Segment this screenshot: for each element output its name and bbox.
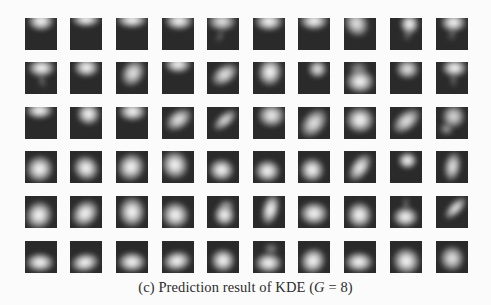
prediction-image-r6-c10 [436, 241, 468, 273]
prediction-image-r3-c4 [162, 107, 194, 139]
prediction-image-r3-c7 [298, 107, 330, 139]
density-blob [255, 253, 282, 273]
density-blob [25, 151, 57, 183]
prediction-image-r2-c10 [436, 62, 468, 94]
prediction-image-r3-c10 [436, 107, 468, 139]
density-blob [255, 18, 283, 31]
prediction-image-r3-c6 [253, 107, 285, 139]
density-blob [345, 252, 373, 272]
density-blob [211, 249, 234, 272]
prediction-image-r4-c6 [253, 151, 285, 183]
density-blob [162, 248, 193, 273]
prediction-image-r4-c8 [344, 151, 376, 183]
density-blob [162, 107, 194, 136]
prediction-image-r4-c1 [25, 151, 57, 183]
prediction-image-r1-c6 [253, 18, 285, 50]
density-blob [25, 197, 57, 228]
density-blob [259, 196, 283, 226]
density-blob [165, 18, 193, 30]
prediction-image-r5-c4 [162, 196, 194, 228]
prediction-image-r5-c10 [436, 196, 468, 228]
density-blob [393, 207, 417, 227]
density-blob [300, 18, 328, 30]
prediction-image-r1-c2 [70, 18, 102, 50]
density-blob [396, 62, 419, 79]
prediction-image-r2-c3 [116, 62, 148, 94]
prediction-image-r2-c4 [162, 62, 194, 94]
density-blob [28, 62, 55, 77]
density-blob [298, 243, 330, 273]
prediction-image-r5-c8 [344, 196, 376, 228]
caption-variable: G [314, 279, 325, 295]
caption-text: Prediction result of KDE ( [158, 279, 314, 295]
density-blob [26, 253, 54, 272]
prediction-image-r1-c1 [25, 18, 57, 50]
prediction-image-r3-c1 [25, 107, 57, 139]
density-blob [209, 159, 233, 181]
density-blob [258, 107, 285, 127]
prediction-image-r5-c7 [298, 196, 330, 228]
prediction-image-r5-c2 [70, 196, 102, 228]
density-blob [209, 107, 239, 134]
prediction-image-r2-c6 [253, 62, 285, 94]
prediction-image-r2-c9 [390, 62, 422, 94]
density-blob [300, 202, 328, 225]
prediction-image-r6-c3 [116, 241, 148, 273]
prediction-image-r6-c2 [70, 241, 102, 273]
prediction-image-r6-c7 [298, 241, 330, 273]
prediction-image-r4-c2 [70, 151, 102, 183]
prediction-image-r4-c9 [390, 151, 422, 183]
prediction-image-r2-c1 [25, 62, 57, 94]
prediction-image-r1-c3 [116, 18, 148, 50]
prediction-image-r6-c6 [253, 241, 285, 273]
density-blob [26, 107, 53, 119]
prediction-image-r6-c5 [207, 241, 239, 273]
density-blob [298, 155, 328, 183]
prediction-image-r5-c3 [116, 196, 148, 228]
prediction-image-r5-c1 [25, 196, 57, 228]
prediction-image-r4-c7 [298, 151, 330, 183]
density-blob [440, 246, 463, 272]
prediction-image-r3-c3 [116, 107, 148, 139]
prediction-image-r5-c9 [390, 196, 422, 228]
prediction-image-r6-c4 [162, 241, 194, 273]
density-blob [162, 151, 192, 183]
prediction-image-r1-c7 [298, 18, 330, 50]
density-blob [344, 18, 373, 41]
density-blob [118, 252, 146, 272]
density-blob [208, 18, 236, 31]
prediction-image-r3-c2 [70, 107, 102, 139]
density-blob [165, 62, 192, 73]
density-blob [344, 151, 376, 183]
density-blob [74, 62, 100, 77]
prediction-image-r1-c4 [162, 18, 194, 50]
density-blob [298, 107, 330, 139]
density-blob [398, 152, 417, 169]
kde-prediction-figure: (c) Prediction result of KDE (G = 8) [0, 0, 491, 305]
prediction-image-r4-c5 [207, 151, 239, 183]
density-blob [70, 151, 102, 183]
density-blob [346, 70, 374, 93]
density-blob [116, 151, 148, 183]
prediction-image-r4-c4 [162, 151, 194, 183]
density-blob [70, 250, 101, 273]
density-blob [119, 107, 146, 121]
prediction-image-r1-c8 [344, 18, 376, 50]
density-blob [72, 18, 100, 27]
prediction-image-r1-c9 [390, 18, 422, 50]
prediction-image-r6-c1 [25, 241, 57, 273]
prediction-image-r2-c2 [70, 62, 102, 94]
density-blob [70, 196, 102, 228]
density-blob [256, 62, 285, 88]
density-blob [119, 197, 145, 228]
density-blob [214, 204, 236, 226]
prediction-image-r2-c8 [344, 62, 376, 94]
density-blob [346, 107, 374, 133]
density-blob [390, 243, 422, 273]
prediction-image-r5-c5 [207, 196, 239, 228]
caption-text-end: = 8) [325, 279, 353, 295]
prediction-image-r6-c9 [390, 241, 422, 273]
density-blob [390, 107, 422, 139]
prediction-image-r1-c10 [436, 18, 468, 50]
prediction-image-r3-c5 [207, 107, 239, 139]
